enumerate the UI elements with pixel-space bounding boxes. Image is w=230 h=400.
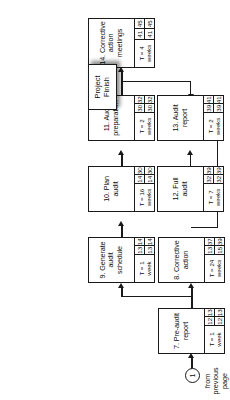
node-11-data-grid: T = 2 weeks 30 32 30 32	[134, 96, 148, 140]
node-9-late-start: 13	[145, 246, 148, 255]
arrowhead-7-to-9	[118, 283, 124, 288]
edge-13-to-14-in	[121, 71, 122, 81]
node-11-early-finish: 32	[135, 96, 144, 104]
node-11-duration: T = 2 weeks	[135, 112, 148, 140]
node-10-title: 10. Plan audit	[89, 167, 134, 211]
node-9-duration-unit: week	[145, 261, 149, 275]
node-14-cells: 41 45 41 45	[135, 19, 148, 39]
edge-13-to-14-up	[121, 81, 148, 82]
node-14-late-row: 41 45	[145, 19, 148, 39]
node-14-late-start: 41	[145, 29, 148, 40]
node-9-cells: 13 14 13 14	[135, 238, 148, 254]
node-10-late-row: 14 30	[145, 167, 148, 183]
node-10-early-start: 14	[135, 175, 144, 184]
node-14-corrective-action-meetings[interactable]: 14. Corrective action meetings T = 4 wee…	[88, 18, 148, 68]
node-10-early-finish: 30	[135, 167, 144, 175]
node-14-data-grid: T = 4 weeks 41 45 41 45	[134, 19, 148, 67]
node-10-plan-audit[interactable]: 10. Plan audit T = 16 weeks 14 30 14 30	[88, 166, 148, 212]
edge-10-to-11	[121, 154, 122, 166]
edge-11-to-12-out	[121, 81, 122, 95]
node-9-data-grid: T = 1 week 13 14 13 14	[134, 238, 148, 282]
node-11-late-row: 30 32	[145, 96, 148, 112]
node-10-cells: 14 30 14 30	[135, 167, 148, 183]
node-14-title: 14. Corrective action meetings	[89, 19, 134, 67]
node-9-early-row: 13 14	[135, 238, 145, 254]
node-9-late-row: 13 14	[145, 238, 148, 254]
node-14-duration-unit: weeks	[145, 45, 149, 63]
node-9-late-finish: 14	[145, 238, 148, 246]
edge-7-to-9	[121, 287, 122, 297]
arrowhead-9-to-10	[118, 221, 124, 226]
node-9-duration: T = 1 week	[135, 254, 148, 282]
node-14-early-finish: 45	[135, 19, 144, 29]
node-11-early-start: 30	[135, 104, 144, 113]
arrowhead-10-to-11	[118, 150, 124, 155]
node-14-duration-value: T = 4	[138, 46, 145, 60]
node-14-late-finish: 45	[145, 19, 148, 29]
project-finish-milestone[interactable]: Project Finish	[88, 64, 117, 110]
node-9-title: 9. Generate audit schedule	[89, 238, 134, 282]
node-11-duration-value: T = 2	[138, 119, 145, 133]
node-10-duration: T = 16 weeks	[135, 183, 148, 211]
node-11-late-finish: 32	[145, 96, 148, 104]
node-10-late-start: 14	[145, 175, 148, 184]
node-9-duration-value: T = 1	[138, 261, 145, 275]
node-14-duration: T = 4 weeks	[135, 39, 148, 67]
node-10-data-grid: T = 16 weeks 14 30 14 30	[134, 167, 148, 211]
node-10-early-row: 14 30	[135, 167, 145, 183]
node-9-generate-audit-schedule[interactable]: 9. Generate audit schedule T = 1 week 13…	[88, 237, 148, 283]
node-10-duration-value: T = 16	[138, 189, 145, 207]
node-11-cells: 30 32 30 32	[135, 96, 148, 112]
edge-7-split-vertical	[121, 296, 148, 297]
node-10-late-finish: 30	[145, 167, 148, 175]
node-11-early-row: 30 32	[135, 96, 145, 112]
edge-9-to-10	[121, 225, 122, 237]
node-10-duration-unit: weeks	[145, 189, 149, 207]
pert-diagram-canvas: from previous page 1 7. Pre-audit report…	[86, 0, 148, 400]
node-9-early-start: 13	[135, 246, 144, 255]
node-14-early-row: 41 45	[135, 19, 145, 39]
node-9-early-finish: 14	[135, 238, 144, 246]
node-11-late-start: 30	[145, 104, 148, 113]
node-11-duration-unit: weeks	[145, 118, 149, 136]
node-14-early-start: 41	[135, 29, 144, 40]
